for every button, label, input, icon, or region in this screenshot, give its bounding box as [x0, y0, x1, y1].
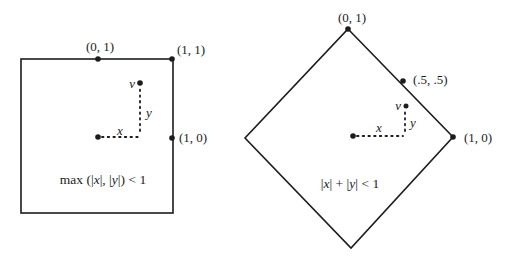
caption-y-var: y: [110, 172, 118, 187]
label-point-1-0: (1, 0): [464, 130, 492, 145]
point-1-0-dot: [450, 134, 456, 140]
label-x-component: x: [375, 120, 382, 135]
label-point-1-0: (1, 0): [179, 130, 207, 145]
vector-v-dot: [137, 80, 143, 86]
origin-dot: [95, 134, 101, 140]
origin-dot: [350, 133, 356, 139]
diamond-caption: |x| + |y| < 1: [321, 176, 379, 191]
caption-x-var: x: [93, 172, 100, 187]
caption-part: | + |: [330, 176, 350, 191]
label-point-0-1: (0, 1): [86, 39, 114, 54]
point-0-1-dot: [345, 26, 351, 32]
label-point-1-1: (1, 1): [177, 42, 205, 57]
norm-ball-diagrams: (0, 1) (1, 1) (1, 0) v x y max (|x|, |y|…: [0, 0, 511, 261]
caption-part: max (|: [60, 172, 94, 187]
caption-part: |) < 1: [118, 172, 146, 187]
label-vector-v: v: [129, 76, 135, 91]
label-vector-v: v: [395, 98, 401, 113]
point-half-half-dot: [400, 78, 406, 84]
caption-part: | < 1: [355, 176, 379, 191]
diamond-figure: (0, 1) (.5, .5) (1, 0) v x y |x| + |y| <…: [245, 10, 492, 248]
square-caption: max (|x|, |y|) < 1: [60, 172, 146, 187]
point-0-1-dot: [95, 56, 101, 62]
figure-canvas: (0, 1) (1, 1) (1, 0) v x y max (|x|, |y|…: [0, 0, 511, 261]
label-point-half-half: (.5, .5): [413, 72, 448, 87]
caption-x-var: x: [323, 176, 330, 191]
caption-part: |, |: [100, 172, 112, 187]
label-y-component: y: [144, 105, 152, 120]
label-x-component: x: [116, 123, 123, 138]
caption-y-var: y: [347, 176, 355, 191]
label-point-0-1: (0, 1): [338, 10, 366, 25]
label-y-component: y: [408, 115, 416, 130]
point-1-0-dot: [169, 135, 175, 141]
point-1-1-dot: [169, 56, 175, 62]
vector-v-dot: [404, 104, 409, 109]
unit-diamond-outline: [245, 29, 453, 248]
square-figure: (0, 1) (1, 1) (1, 0) v x y max (|x|, |y|…: [21, 39, 207, 213]
